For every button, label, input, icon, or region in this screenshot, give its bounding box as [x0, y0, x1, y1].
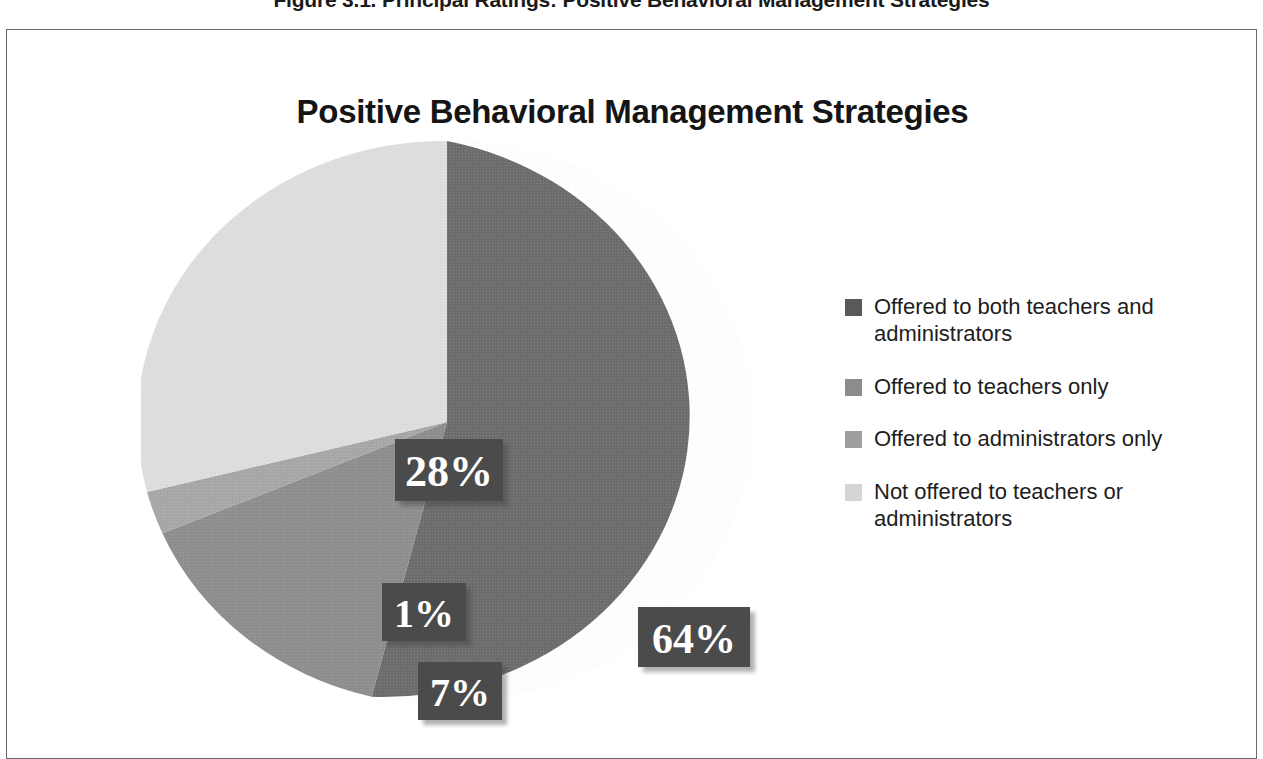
legend-label: Offered to teachers only — [874, 374, 1108, 401]
legend-item-offered-administrators-only[interactable]: Offered to administrators only — [845, 426, 1215, 453]
figure-caption: Figure 3.1. Principal Ratings: Positive … — [0, 0, 1263, 12]
chart-legend: Offered to both teachers and administrat… — [845, 294, 1215, 559]
pie-data-label-1: 1% — [382, 583, 466, 641]
legend-item-offered-teachers-only[interactable]: Offered to teachers only — [845, 374, 1215, 401]
legend-label: Not offered to teachers or administrator… — [874, 479, 1194, 533]
figure-frame: Positive Behavioral Management Strategie… — [6, 29, 1257, 759]
legend-swatch-icon — [845, 431, 862, 448]
legend-item-offered-both[interactable]: Offered to both teachers and administrat… — [845, 294, 1215, 348]
legend-swatch-icon — [845, 299, 862, 316]
pie-chart: 28% 1% 7% 64% — [141, 141, 753, 703]
pie-data-label-64: 64% — [638, 607, 750, 667]
pie-data-label-28: 28% — [395, 439, 503, 501]
legend-label: Offered to both teachers and administrat… — [874, 294, 1194, 348]
legend-swatch-icon — [845, 484, 862, 501]
legend-label: Offered to administrators only — [874, 426, 1162, 453]
chart-title: Positive Behavioral Management Strategie… — [7, 93, 1258, 131]
pie-data-label-7: 7% — [418, 662, 502, 720]
legend-swatch-icon — [845, 379, 862, 396]
legend-item-not-offered[interactable]: Not offered to teachers or administrator… — [845, 479, 1215, 533]
